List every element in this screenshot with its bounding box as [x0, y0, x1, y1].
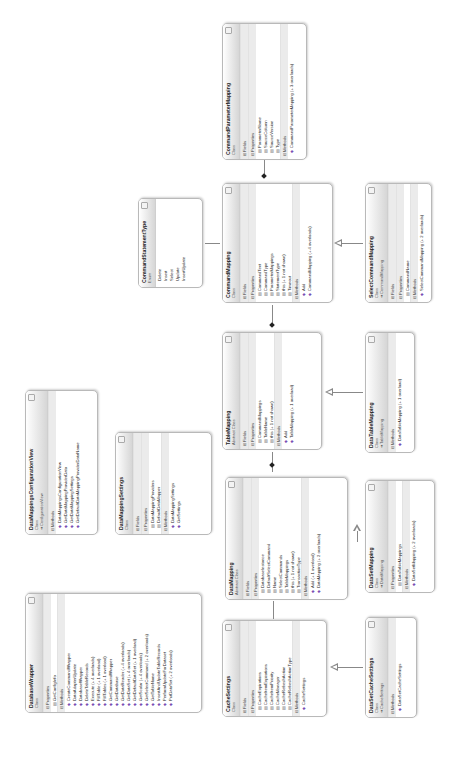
collapse-icon[interactable]: ⊟: [276, 442, 281, 446]
section-header-properties[interactable]: ⊟Properties: [388, 481, 396, 592]
collapse-icon[interactable]: ⊟: [143, 527, 148, 531]
class-box-commandparametermapping[interactable]: CommandParameterMappingClass⊞Fields⊟Prop…: [222, 23, 307, 160]
collapse-toggle-icon[interactable]: [28, 597, 35, 604]
member-item[interactable]: ◆DataTableMapping (+ 1 overload): [396, 333, 402, 452]
section-header-methods[interactable]: ⊟Methods: [388, 618, 396, 717]
method-icon: ◆: [66, 701, 71, 706]
section-header-properties[interactable]: ⊟Properties: [248, 621, 256, 716]
collapse-icon[interactable]: ⊟: [45, 705, 50, 709]
collapse-icon[interactable]: ⊟: [404, 585, 409, 589]
collapse-icon[interactable]: ⊟: [390, 445, 395, 449]
expand-icon[interactable]: ⊞: [242, 709, 247, 713]
member-item[interactable]: ◆CacheSettings: [300, 621, 306, 716]
section-header-properties[interactable]: ⊟Properties: [248, 24, 256, 159]
section-header-methods[interactable]: ⊟Methods: [280, 24, 288, 159]
expand-icon[interactable]: ⊞: [242, 295, 247, 299]
section-header-methods[interactable]: ⊟Methods: [292, 184, 300, 302]
collapse-icon[interactable]: ⊟: [390, 585, 395, 589]
collapse-toggle-icon[interactable]: [225, 336, 232, 343]
expand-icon[interactable]: ⊞: [242, 442, 247, 446]
member-item[interactable]: ◆GetDefaultDataMappingProviderDataName: [74, 391, 80, 534]
collapse-toggle-icon[interactable]: [225, 27, 232, 34]
collapse-toggle-icon[interactable]: [28, 394, 35, 401]
class-box-selectcommandmapping[interactable]: SelectCommandMappingClass➔ CommandMappin…: [365, 183, 432, 303]
section-header-methods[interactable]: ⊟Methods: [410, 184, 418, 302]
member-item[interactable]: ◆DataSetMapping (+ 2 overloads): [410, 481, 416, 592]
section-header-methods[interactable]: ⊟Methods: [48, 391, 56, 534]
collapse-icon[interactable]: ⊟: [253, 592, 258, 596]
collapse-toggle-icon[interactable]: [118, 436, 125, 443]
class-box-datatablemapping[interactable]: DataTableMappingClass➔ TableMapping⊟Meth…: [365, 332, 415, 453]
collapse-icon[interactable]: ⊟: [390, 710, 395, 714]
class-header: TableMappingAbstract Class: [223, 333, 240, 449]
section-header-fields[interactable]: ⊞Fields: [240, 333, 248, 449]
section-header-properties[interactable]: ⊟Properties: [396, 184, 404, 302]
member-item[interactable]: ◆GetSettings: [175, 433, 181, 534]
section-header-fields[interactable]: ⊞Fields: [243, 478, 251, 599]
collapse-icon[interactable]: ⊟: [294, 709, 299, 713]
method-icon: ◆: [96, 701, 101, 706]
section-header-methods[interactable]: ⊟Methods: [402, 481, 410, 592]
class-box-datamappingsettings[interactable]: DataMappingSettingsClass⊞Fields⊟Properti…: [115, 432, 212, 535]
section-header-properties[interactable]: ⊟Properties: [248, 333, 256, 449]
member-item[interactable]: ◆CommandMapping (+ 4 overloads): [306, 184, 312, 302]
section-header-methods[interactable]: ⊟Methods: [292, 621, 300, 716]
section-header-methods[interactable]: ⊟Methods: [161, 433, 169, 534]
member-item[interactable]: ◆TableMapping (+ 1 overload): [288, 333, 294, 449]
collapse-toggle-icon[interactable]: [225, 624, 232, 631]
enum-box-commandstatementtype[interactable]: CommandStatementTypeEnumDeleteInsertSele…: [138, 198, 203, 288]
collapse-toggle-icon[interactable]: [368, 484, 375, 491]
class-box-datamappingsconfigurationview[interactable]: DataMappingsConfigurationViewClass➔ Conf…: [25, 390, 98, 535]
section-header-fields[interactable]: ⊞Fields: [388, 184, 396, 302]
section-header-properties[interactable]: ⊟Properties: [43, 594, 51, 712]
section-header-methods[interactable]: ⊟Methods: [301, 478, 309, 599]
collapse-toggle-icon[interactable]: [228, 481, 235, 488]
member-item[interactable]: ◆PutDataSet (+ 2 overloads): [167, 594, 173, 712]
section-header-properties[interactable]: ⊟Properties: [251, 478, 259, 599]
class-box-commandmapping[interactable]: CommandMappingClass⊞Fields⊟Properties▤Co…: [222, 183, 333, 303]
collapse-icon[interactable]: ⊟: [412, 295, 417, 299]
expand-icon[interactable]: ⊞: [135, 527, 140, 531]
section-header-methods[interactable]: ⊟Methods: [388, 333, 396, 452]
section-header-methods[interactable]: ⊟Methods: [57, 594, 65, 712]
property-icon: ▤: [275, 148, 280, 153]
member-item[interactable]: ◆DataMapping (+ 2 overloads): [315, 478, 321, 599]
collapse-toggle-icon[interactable]: [141, 202, 148, 209]
section-header-fields[interactable]: ⊞Fields: [240, 24, 248, 159]
collapse-toggle-icon[interactable]: [368, 187, 375, 194]
collapse-icon[interactable]: ⊟: [250, 295, 255, 299]
collapse-toggle-icon[interactable]: [368, 336, 375, 343]
class-box-datasetmapping[interactable]: DataSetMappingClass➔ DataMapping⊟Propert…: [365, 480, 435, 593]
collapse-icon[interactable]: ⊟: [294, 295, 299, 299]
collapse-icon[interactable]: ⊟: [250, 152, 255, 156]
collapse-icon[interactable]: ⊟: [250, 709, 255, 713]
collapse-icon[interactable]: ⊟: [282, 152, 287, 156]
class-box-datasetcachesettings[interactable]: DataSetCacheSettingsClass➔ CacheSettings…: [365, 617, 417, 718]
collapse-icon[interactable]: ⊟: [163, 527, 168, 531]
member-item[interactable]: ◆CommandParameterMapping (+ 3 overloads): [288, 24, 294, 159]
member-name: CacheItemExpirations: [263, 664, 268, 705]
collapse-toggle-icon[interactable]: [368, 621, 375, 628]
class-box-databasewrapper[interactable]: DatabaseWrapperClass⊟Properties▤GetConfi…: [25, 593, 202, 713]
section-header-fields[interactable]: ⊞Fields: [240, 621, 248, 716]
class-box-datamapping[interactable]: DataMappingAbstract Class⊞Fields⊟Propert…: [225, 477, 348, 600]
class-box-tablemapping[interactable]: TableMappingAbstract Class⊞Fields⊟Proper…: [222, 332, 322, 450]
collapse-icon[interactable]: ⊟: [250, 442, 255, 446]
section-header-properties[interactable]: ⊟Properties: [248, 184, 256, 302]
expand-icon[interactable]: ⊞: [242, 152, 247, 156]
collapse-toggle-icon[interactable]: [225, 187, 232, 194]
collapse-icon[interactable]: ⊟: [50, 527, 55, 531]
class-box-cachesettings[interactable]: CacheSettingsClass⊞Fields⊟Properties▤Cac…: [222, 620, 327, 717]
expand-icon[interactable]: ⊞: [390, 295, 395, 299]
section-header-methods[interactable]: ⊟Methods: [274, 333, 282, 449]
member-item[interactable]: ◆SelectCommandMapping (+ 2 overloads): [418, 184, 424, 302]
section-header-fields[interactable]: ⊞Fields: [240, 184, 248, 302]
expand-icon[interactable]: ⊞: [245, 592, 250, 596]
section-header-fields[interactable]: ⊞Fields: [133, 433, 141, 534]
class-box-content: CommandStatementTypeEnumDeleteInsertSele…: [138, 198, 203, 288]
section-header-properties[interactable]: ⊟Properties: [141, 433, 149, 534]
collapse-icon[interactable]: ⊟: [303, 592, 308, 596]
member-item[interactable]: ◆DataSetCacheSettings: [396, 618, 402, 717]
collapse-icon[interactable]: ⊟: [398, 295, 403, 299]
collapse-icon[interactable]: ⊟: [59, 705, 64, 709]
